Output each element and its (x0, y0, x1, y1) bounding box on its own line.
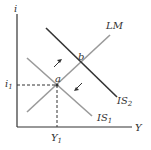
lm-label: LM (105, 20, 124, 31)
x-axis-label: Y (135, 122, 143, 133)
y1-tick-label: Y1 (51, 132, 62, 145)
arrow-up-right-icon (54, 59, 62, 67)
y-axis-label: i (14, 3, 17, 14)
lm-curve (27, 35, 110, 112)
is1-label: IS1 (96, 112, 112, 125)
point-a-label: a (55, 73, 61, 84)
point-b-label: b (78, 51, 84, 62)
arrow-down-left-icon (74, 83, 82, 91)
is-lm-diagram: i Y LM b a IS2 IS1 i1 Y1 (0, 0, 151, 150)
is1-curve (27, 58, 92, 116)
i1-tick-label: i1 (5, 78, 13, 91)
is2-label: IS2 (116, 95, 133, 108)
